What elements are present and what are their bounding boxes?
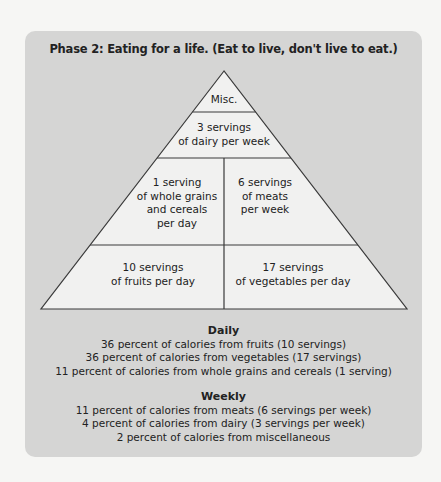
daily-line: 11 percent of calories from whole grains… [25, 365, 422, 379]
weekly-line: 4 percent of calories from dairy (3 serv… [25, 417, 422, 431]
grains-line: per day [137, 217, 217, 231]
weekly-heading: Weekly [25, 390, 422, 404]
daily-summary: Daily 36 percent of calories from fruits… [25, 324, 422, 378]
meats-line: of meats [238, 190, 292, 204]
weekly-line: 2 percent of calories from miscellaneous [25, 431, 422, 445]
meats-line: per week [238, 203, 292, 217]
pyramid-tier-meats: 6 servings of meats per week [238, 176, 292, 217]
vegetables-line: 17 servings [236, 261, 351, 275]
fruits-line: of fruits per day [111, 275, 195, 289]
grains-line: 1 serving [137, 176, 217, 190]
dairy-line: 3 servings [178, 121, 270, 135]
fruits-line: 10 servings [111, 261, 195, 275]
daily-line: 36 percent of calories from fruits (10 s… [25, 338, 422, 352]
misc-label: Misc. [211, 93, 238, 107]
pyramid-tier-grains: 1 serving of whole grains and cereals pe… [137, 176, 217, 230]
pyramid-tier-vegetables: 17 servings of vegetables per day [236, 261, 351, 288]
daily-heading: Daily [25, 324, 422, 338]
daily-line: 36 percent of calories from vegetables (… [25, 351, 422, 365]
grains-line: and cereals [137, 203, 217, 217]
pyramid-tier-fruits: 10 servings of fruits per day [111, 261, 195, 288]
dairy-line: of dairy per week [178, 135, 270, 149]
grains-line: of whole grains [137, 190, 217, 204]
pyramid-tier-dairy: 3 servings of dairy per week [178, 121, 270, 148]
pyramid-tier-misc: Misc. [211, 93, 238, 107]
weekly-line: 11 percent of calories from meats (6 ser… [25, 404, 422, 418]
meats-line: 6 servings [238, 176, 292, 190]
weekly-summary: Weekly 11 percent of calories from meats… [25, 390, 422, 444]
vegetables-line: of vegetables per day [236, 275, 351, 289]
